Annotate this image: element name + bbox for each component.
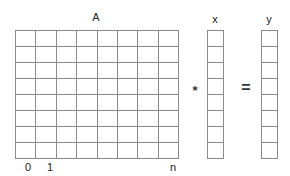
matrix-cell <box>36 95 56 111</box>
vector-x-cell <box>208 111 224 127</box>
matrix-cell <box>77 79 97 95</box>
vector-y-cell <box>262 127 278 143</box>
matrix-cell <box>159 47 179 63</box>
matrix-cell <box>57 95 77 111</box>
matrix-cell <box>16 79 36 95</box>
matrix-cell <box>36 79 56 95</box>
matrix-cell <box>118 31 138 47</box>
matrix-cell <box>16 63 36 79</box>
vector-y-grid <box>261 30 278 159</box>
matrix-cell <box>118 79 138 95</box>
matrix-cell <box>77 127 97 143</box>
vector-x-cell <box>208 79 224 95</box>
matrix-cell <box>138 31 158 47</box>
matrix-cell <box>16 95 36 111</box>
vector-y-label: y <box>261 13 277 25</box>
matrix-cell <box>77 47 97 63</box>
vector-x-grid <box>207 30 224 159</box>
matrix-cell <box>138 143 158 159</box>
matrix-cell <box>16 31 36 47</box>
matrix-cell <box>57 143 77 159</box>
matrix-cell <box>57 111 77 127</box>
matrix-cell <box>118 111 138 127</box>
matrix-cell <box>159 79 179 95</box>
matrix-cell <box>16 127 36 143</box>
vector-y-cell <box>262 63 278 79</box>
matrix-cell <box>98 127 118 143</box>
matrix-a-label: A <box>88 11 104 23</box>
vector-x-cell <box>208 31 224 47</box>
matrix-cell <box>98 111 118 127</box>
matrix-cell <box>36 127 56 143</box>
vector-x-cell <box>208 127 224 143</box>
matrix-cell <box>77 111 97 127</box>
column-index-1: 1 <box>44 161 56 173</box>
vector-y-cell <box>262 47 278 63</box>
matrix-cell <box>98 143 118 159</box>
matrix-cell <box>118 143 138 159</box>
matrix-cell <box>36 143 56 159</box>
matrix-cell <box>57 127 77 143</box>
matrix-cell <box>138 127 158 143</box>
matrix-cell <box>77 95 97 111</box>
matrix-cell <box>138 63 158 79</box>
matrix-cell <box>16 47 36 63</box>
vector-y-cell <box>262 95 278 111</box>
matrix-cell <box>118 95 138 111</box>
matrix-cell <box>138 111 158 127</box>
matrix-cell <box>36 111 56 127</box>
matrix-cell <box>36 31 56 47</box>
matrix-cell <box>159 31 179 47</box>
matrix-cell <box>118 63 138 79</box>
vector-y-cell <box>262 143 278 159</box>
matrix-cell <box>118 47 138 63</box>
matrix-cell <box>57 79 77 95</box>
matrix-cell <box>36 63 56 79</box>
column-index-n: n <box>167 161 179 173</box>
matrix-cell <box>138 79 158 95</box>
matrix-cell <box>138 47 158 63</box>
matrix-cell <box>36 47 56 63</box>
matrix-cell <box>98 95 118 111</box>
vector-y-cell <box>262 79 278 95</box>
matrix-cell <box>77 63 97 79</box>
matrix-cell <box>57 63 77 79</box>
matrix-cell <box>159 127 179 143</box>
vector-y-cell <box>262 111 278 127</box>
matrix-cell <box>16 111 36 127</box>
matrix-cell <box>57 31 77 47</box>
matrix-cell <box>159 63 179 79</box>
multiply-operator: * <box>189 84 201 98</box>
matrix-cell <box>98 63 118 79</box>
matrix-cell <box>159 111 179 127</box>
matrix-cell <box>98 47 118 63</box>
matrix-cell <box>98 31 118 47</box>
matrix-cell <box>138 95 158 111</box>
vector-x-cell <box>208 47 224 63</box>
matrix-cell <box>77 143 97 159</box>
matrix-cell <box>159 95 179 111</box>
vector-y-cell <box>262 31 278 47</box>
matrix-cell <box>98 79 118 95</box>
matrix-cell <box>77 31 97 47</box>
matrix-cell <box>159 143 179 159</box>
matrix-cell <box>118 127 138 143</box>
vector-x-cell <box>208 143 224 159</box>
vector-x-label: x <box>207 13 223 25</box>
matrix-a-grid <box>15 30 179 159</box>
column-index-0: 0 <box>22 161 34 173</box>
vector-x-cell <box>208 63 224 79</box>
vector-x-cell <box>208 95 224 111</box>
equals-operator: = <box>238 80 254 96</box>
matrix-cell <box>16 143 36 159</box>
matrix-cell <box>57 47 77 63</box>
